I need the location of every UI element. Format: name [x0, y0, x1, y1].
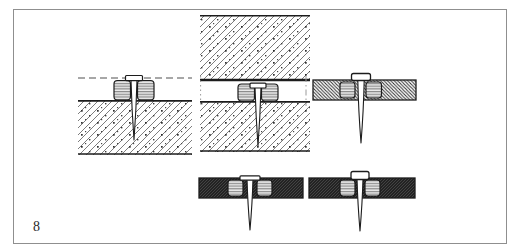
figure-frame: 8	[13, 9, 507, 244]
diagram-plug-in-cavity-between-masonry-layers	[200, 15, 310, 152]
diagram-plug-proud-in-thin-dark-board	[309, 172, 415, 232]
nail-shank	[247, 179, 253, 230]
figure-diagram	[14, 10, 506, 243]
nail-head	[240, 176, 260, 180]
nail-shank	[358, 80, 364, 143]
upper-masonry-speckle	[200, 15, 310, 81]
wall-plug-left-lobe	[340, 82, 355, 98]
wall-plug-left-lobe	[340, 180, 355, 196]
diagram-plug-flush-in-thin-dark-board	[199, 176, 303, 230]
wall-plug-right-lobe	[257, 180, 272, 196]
nail-shank	[357, 179, 363, 231]
wall-plug-right-lobe	[138, 81, 155, 101]
diagram-plug-in-masonry-under-plaster	[78, 76, 192, 156]
figure-number: 8	[33, 220, 40, 234]
nail-head	[351, 172, 369, 180]
wall-plug-left-lobe	[228, 180, 243, 196]
diagram-plug-in-thin-board	[313, 74, 416, 144]
wall-plug-right-lobe	[366, 82, 382, 98]
wall-plug-right-lobe	[365, 180, 380, 196]
lower-masonry-speckle	[200, 101, 310, 152]
nail-head	[250, 83, 266, 88]
nail-head	[126, 76, 143, 81]
wall-plug-left-lobe	[114, 81, 131, 101]
nail-head	[352, 74, 371, 81]
